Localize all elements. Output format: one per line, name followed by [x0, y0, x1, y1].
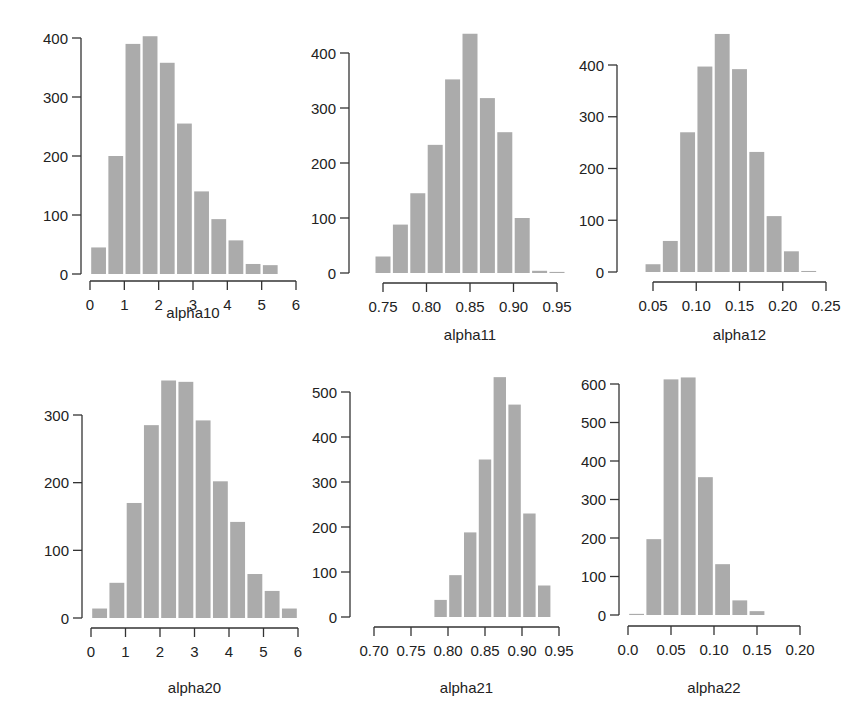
- histogram-bar: [410, 193, 425, 273]
- x-tick-label: 0.80: [412, 298, 441, 315]
- y-tick-label: 300: [311, 100, 336, 117]
- histogram-bar: [681, 377, 696, 615]
- y-tick-label: 400: [311, 45, 336, 62]
- histogram-bar: [749, 152, 764, 272]
- histogram-panel-alpha10: 01002003004000123456alpha10: [43, 30, 300, 322]
- y-tick-label: 300: [581, 491, 606, 508]
- histogram-bar: [697, 67, 712, 272]
- histogram-bar: [732, 600, 747, 615]
- x-tick-label: 0: [87, 643, 95, 660]
- x-tick-label: 2: [156, 643, 164, 660]
- histogram-bar: [143, 36, 158, 274]
- histogram-bar: [449, 575, 461, 617]
- x-tick-label: 0.95: [542, 298, 571, 315]
- histogram-bar: [463, 34, 478, 273]
- histogram-bar: [160, 63, 175, 274]
- x-axis-title: alpha11: [444, 326, 496, 343]
- y-tick-label: 100: [579, 212, 604, 229]
- histogram-bar: [515, 218, 530, 273]
- y-tick-label: 300: [43, 89, 68, 106]
- x-axis-title: alpha22: [687, 679, 740, 696]
- y-tick-label: 100: [311, 210, 336, 227]
- y-tick-label: 600: [581, 376, 606, 393]
- histogram-bar: [715, 564, 730, 615]
- histogram-bar: [750, 611, 765, 615]
- histogram-bar: [108, 156, 123, 274]
- histogram-panel-alpha20: 01002003000123456alpha20: [44, 380, 302, 696]
- histogram-bar: [550, 272, 565, 273]
- y-tick-label: 200: [312, 519, 337, 536]
- histogram-bar: [194, 191, 209, 274]
- x-tick-label: 1: [120, 296, 128, 313]
- x-tick-label: 0.85: [470, 642, 499, 659]
- x-tick-label: 2: [154, 296, 162, 313]
- x-tick-label: 0.90: [507, 642, 536, 659]
- histogram-bar: [784, 251, 799, 272]
- bars: [629, 377, 764, 615]
- histogram-panel-alpha22: 01002003004005006000.00.050.100.150.20al…: [581, 376, 815, 697]
- histogram-bar: [445, 79, 460, 273]
- x-tick-label: 4: [223, 296, 231, 313]
- y-tick-label: 0: [60, 266, 68, 283]
- histogram-bar: [246, 264, 261, 274]
- histogram-bar: [109, 583, 124, 618]
- y-tick-label: 200: [44, 474, 69, 491]
- y-tick-label: 100: [44, 542, 69, 559]
- histogram-bar: [161, 380, 176, 618]
- histogram-bar: [715, 34, 730, 272]
- x-tick-label: 4: [225, 643, 233, 660]
- histogram-bar: [646, 264, 661, 272]
- histogram-bar: [91, 247, 106, 274]
- y-tick-label: 100: [581, 568, 606, 585]
- histogram-bar: [230, 522, 245, 618]
- x-tick-label: 0.05: [638, 297, 667, 314]
- histogram-bar: [247, 574, 262, 618]
- y-tick-label: 400: [581, 453, 606, 470]
- histogram-bar: [523, 514, 535, 618]
- histogram-bar: [196, 420, 211, 618]
- histogram-bar: [497, 132, 512, 273]
- x-axis-title: alpha21: [440, 679, 493, 696]
- bars: [92, 380, 297, 618]
- x-tick-label: 0.25: [811, 297, 840, 314]
- histogram-bar: [178, 382, 193, 618]
- x-tick-label: 0.05: [656, 641, 685, 658]
- y-tick-label: 400: [312, 429, 337, 446]
- bars: [434, 377, 550, 617]
- x-tick-label: 5: [259, 643, 267, 660]
- x-tick-label: 0.80: [433, 642, 462, 659]
- y-tick-label: 0: [328, 265, 336, 282]
- histogram-bar: [434, 600, 446, 617]
- y-tick-label: 0: [61, 610, 69, 627]
- histogram-bar: [144, 425, 159, 618]
- histogram-bar: [177, 124, 192, 274]
- x-tick-label: 5: [257, 296, 265, 313]
- histogram-bar: [211, 219, 226, 274]
- x-tick-label: 6: [292, 296, 300, 313]
- y-tick-label: 500: [312, 384, 337, 401]
- histogram-bar: [663, 241, 678, 272]
- x-tick-label: 0.95: [544, 642, 573, 659]
- x-tick-label: 0.70: [359, 642, 388, 659]
- histogram-grid-figure: 01002003004000123456alpha100100200300400…: [0, 0, 863, 719]
- y-tick-label: 200: [311, 155, 336, 172]
- x-tick-label: 6: [294, 643, 302, 660]
- bars: [91, 36, 277, 274]
- x-tick-label: 0.75: [396, 642, 425, 659]
- x-tick-label: 0.20: [785, 641, 814, 658]
- histogram-bar: [646, 539, 661, 615]
- histogram-bar: [464, 532, 476, 617]
- histogram-bar: [282, 609, 297, 618]
- x-tick-label: 1: [121, 643, 129, 660]
- histogram-bar: [376, 257, 391, 274]
- histogram-bar: [664, 379, 679, 615]
- y-tick-label: 200: [581, 530, 606, 547]
- histogram-bar: [479, 460, 491, 618]
- y-tick-label: 300: [312, 474, 337, 491]
- histogram-panel-alpha12: 01002003004000.050.100.150.200.25alpha12: [579, 34, 841, 343]
- x-tick-label: 0.75: [368, 298, 397, 315]
- x-tick-label: 0.85: [455, 298, 484, 315]
- histogram-bar: [732, 69, 747, 272]
- x-tick-label: 0.15: [725, 297, 754, 314]
- bars: [646, 34, 817, 272]
